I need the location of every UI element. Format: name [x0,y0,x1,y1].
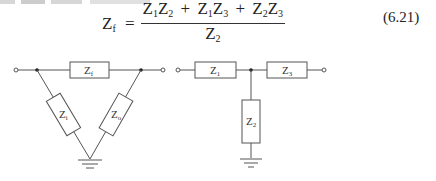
ground-icon [78,160,102,168]
terminal-left-icon [176,68,180,72]
circuit-diagrams: Zf Zi Zo Z1 Z3 Z2 [0,0,436,181]
terminal-left-icon [14,68,18,72]
ground-icon [240,159,262,167]
terminal-right-icon [161,68,165,72]
pi-network [14,62,165,168]
terminal-right-icon [322,68,326,72]
